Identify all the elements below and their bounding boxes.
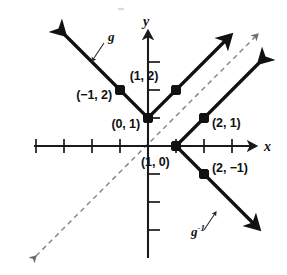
curve-label-g-inverse-exponent: -1 <box>198 223 206 233</box>
curve-label-g-inverse: g-1 <box>190 223 205 239</box>
point-2-1 <box>200 114 209 123</box>
graph-figure: x y g g-1 (−1, 2) (1, 2) (0, 1) (1, 0) (… <box>0 0 287 275</box>
point-1-0 <box>172 142 181 151</box>
leader-line-g <box>92 43 104 61</box>
curve-label-g: g <box>107 29 115 44</box>
point-label-1-0: (1, 0) <box>141 155 170 169</box>
leader-line-g-inverse <box>204 212 216 230</box>
point-0-1 <box>144 114 153 123</box>
point-neg1-2 <box>116 86 125 95</box>
coordinate-plane-svg: x y g g-1 (−1, 2) (1, 2) (0, 1) (1, 0) (… <box>0 0 287 275</box>
point-label-2-1: (2, 1) <box>212 116 241 130</box>
point-label-0-1: (0, 1) <box>111 117 140 131</box>
x-axis-label: x <box>263 139 271 154</box>
point-label-neg1-2: (−1, 2) <box>76 88 112 102</box>
point-label-1-2: (1, 2) <box>130 69 159 83</box>
y-axis-label: y <box>141 14 150 29</box>
point-2-neg1 <box>200 170 209 179</box>
point-label-2-neg1: (2, −1) <box>212 161 248 175</box>
point-1-2 <box>172 86 181 95</box>
print-speck <box>118 8 124 11</box>
